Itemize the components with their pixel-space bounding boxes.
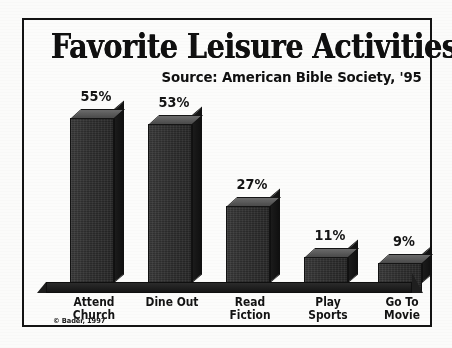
bar-side-face: [348, 240, 358, 283]
chart-image: Favorite Leisure Activities Source: Amer…: [0, 0, 452, 348]
bar-value-label: 53%: [150, 94, 198, 110]
bar-value-label: 9%: [380, 233, 428, 249]
bar-front-face: [70, 118, 114, 292]
ground-shelf: [46, 282, 412, 293]
bar-side-face: [422, 246, 432, 283]
category-label-line1: Play: [315, 295, 340, 309]
bar-value-label: 11%: [306, 227, 354, 243]
category-label-line1: Read: [235, 295, 265, 309]
bar-side-face: [114, 101, 124, 283]
category-label-line2: Movie: [367, 309, 438, 322]
category-label: PlaySports: [293, 296, 364, 322]
bar-front-face: [148, 124, 192, 292]
bar-value-label: 55%: [72, 88, 120, 104]
category-label: Go ToMovie: [367, 296, 438, 322]
chart-frame: Favorite Leisure Activities Source: Amer…: [22, 18, 432, 327]
plot-area: 55%53%27%11%9%: [48, 102, 428, 292]
chart-subtitle: Source: American Bible Society, '95: [162, 69, 422, 85]
bar-front-face: [226, 206, 270, 292]
category-label: Dine Out: [137, 296, 208, 309]
category-label-line2: Sports: [293, 309, 364, 322]
category-label-line1: Attend: [73, 295, 114, 309]
ground-bevel-right: [412, 273, 423, 293]
category-label: ReadFiction: [215, 296, 286, 322]
chart-title: Favorite Leisure Activities: [51, 30, 408, 64]
bar: [148, 124, 192, 292]
copyright-notice: © Bader, 1997: [53, 317, 105, 325]
category-label-line2: Fiction: [215, 309, 286, 322]
category-axis-labels: AttendChurchDine OutReadFictionPlaySport…: [48, 296, 428, 332]
bar-side-face: [192, 107, 202, 283]
bar-value-label: 27%: [228, 176, 276, 192]
bar: [70, 118, 114, 292]
category-label-line1: Dine Out: [146, 295, 199, 309]
category-label-line1: Go To: [385, 295, 418, 309]
bar: [226, 206, 270, 292]
ground-face: [46, 282, 412, 293]
title-block: Favorite Leisure Activities Source: Amer…: [24, 30, 434, 64]
ground-bevel-left: [37, 282, 46, 293]
